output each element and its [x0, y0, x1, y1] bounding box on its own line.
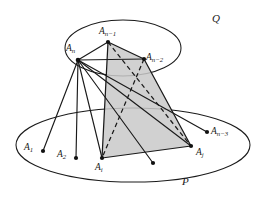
- vertex-dot-a1: [41, 149, 45, 153]
- label-a2-base: A: [57, 149, 63, 159]
- label-a2: A2: [57, 150, 66, 160]
- vertex-dot-an3: [205, 130, 209, 134]
- label-plane-q: Q: [212, 13, 220, 24]
- label-an-sub: n: [72, 47, 75, 54]
- vertex-dot-an: [76, 58, 81, 63]
- label-ai: Ai: [95, 163, 103, 173]
- label-a1-sub: 1: [30, 146, 33, 153]
- label-aj-base: A: [196, 147, 202, 157]
- label-a1: A1: [24, 143, 33, 153]
- label-a2-sub: 2: [63, 153, 66, 160]
- label-an: An: [66, 44, 75, 54]
- label-ai-base: A: [95, 162, 101, 172]
- vertex-dot-ai: [100, 156, 104, 160]
- label-a1-base: A: [24, 142, 30, 152]
- vertex-dot-aj: [189, 144, 193, 148]
- edge-an-a2: [76, 60, 78, 158]
- label-aj-sub: j: [202, 151, 204, 158]
- label-plane-p: P: [182, 176, 189, 187]
- label-an3-sub: n−3: [217, 130, 228, 137]
- label-an1: An−1: [99, 27, 116, 37]
- label-an-base: A: [66, 43, 72, 53]
- label-an2-base: A: [146, 52, 152, 62]
- label-aj: Aj: [196, 148, 204, 158]
- label-an1-sub: n−1: [105, 30, 116, 37]
- label-ai-sub: i: [101, 166, 103, 173]
- geometry-figure: A1 A2 Ai Aj An−3 An−2 An−1 An Q P: [0, 0, 272, 202]
- label-an2-sub: n−2: [152, 56, 163, 63]
- vertex-dot-ufree: [151, 161, 155, 165]
- edge-an-ai: [78, 60, 102, 158]
- label-an2: An−2: [146, 53, 163, 63]
- edge-an-an1: [78, 42, 108, 60]
- edge-an-a1: [43, 60, 78, 151]
- vertex-dot-a2: [74, 156, 78, 160]
- vertex-dot-an1: [106, 40, 110, 44]
- label-an3: An−3: [211, 127, 228, 137]
- label-an1-base: A: [99, 26, 105, 36]
- label-an3-base: A: [211, 126, 217, 136]
- geometry-canvas: [0, 0, 272, 202]
